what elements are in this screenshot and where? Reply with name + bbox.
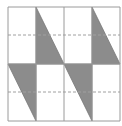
shaded-triangle [8, 64, 36, 121]
grid-diagram [0, 0, 122, 126]
grid-lines [8, 7, 120, 121]
